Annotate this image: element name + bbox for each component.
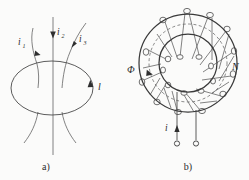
current-line-i3 (62, 23, 86, 88)
figure-canvas: i 1 i 2 i 3 l a) (0, 0, 249, 180)
label-current-i1: i (18, 37, 21, 47)
terminal-dot-right[interactable] (193, 141, 198, 146)
current-line-i1 (32, 28, 41, 88)
label-loop-l: l (98, 81, 101, 92)
panel-a-group: i 1 i 2 i 3 l a) (11, 17, 101, 173)
toroid-lead-wires (174, 92, 196, 140)
terminal-dot-left[interactable] (174, 141, 179, 146)
physics-figure-root: i 1 i 2 i 3 l a) (0, 0, 249, 180)
current-lines-bottom-tails (24, 112, 76, 143)
winding-turn (150, 78, 166, 105)
current-direction-arrow (174, 125, 179, 132)
label-flux-phi: Φ (127, 64, 135, 75)
toroid-outer-circle (139, 14, 237, 112)
toroid-core (139, 14, 237, 112)
label-current-i: i (165, 123, 168, 133)
integration-loop-l (11, 61, 93, 115)
label-current-i2-subscript: 2 (62, 33, 65, 39)
caption-panel-b: b) (184, 161, 192, 173)
label-current-i3-subscript: 3 (83, 40, 87, 46)
flux-path-dashed-circle (149, 24, 227, 102)
label-current-i3: i (79, 34, 82, 44)
winding-inner-loop (177, 55, 183, 60)
winding-inner-loop (196, 55, 202, 60)
current-line-i2 (50, 17, 56, 155)
label-current-i1-subscript: 1 (23, 43, 26, 49)
label-turns-n: N (231, 61, 240, 72)
panel-b-group: Φ N i b) (127, 8, 240, 173)
winding-turn (202, 71, 236, 93)
label-current-i2: i (57, 27, 60, 37)
winding-inner-loop (209, 63, 214, 69)
winding-inner-loop (161, 67, 166, 73)
toroid-inner-circle (159, 34, 217, 92)
winding-inner-loop (165, 56, 171, 62)
caption-panel-a: a) (42, 161, 50, 173)
winding-turn (180, 8, 199, 57)
